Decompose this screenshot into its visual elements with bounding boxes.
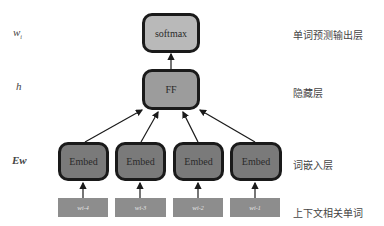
- softmax-label: softmax: [155, 28, 187, 39]
- embed-node-2: Embed: [115, 142, 166, 181]
- ff-label: FF: [165, 84, 176, 95]
- embed-label: Embed: [242, 156, 270, 167]
- embed-label: Embed: [69, 156, 97, 167]
- softmax-node: softmax: [142, 13, 200, 53]
- input-word-sub: i-4: [82, 205, 89, 211]
- hidden-layer-label: 隐藏层: [293, 85, 323, 100]
- input-word-sub: i-2: [197, 205, 204, 211]
- embed-label: Embed: [126, 156, 154, 167]
- input-word-4: wi-1: [230, 198, 280, 217]
- embed-node-4: Embed: [230, 142, 282, 181]
- input-word-sub: i-1: [254, 205, 261, 211]
- feedforward-node: FF: [142, 69, 200, 110]
- input-word-sub: i-3: [140, 205, 147, 211]
- embed-node-1: Embed: [58, 142, 109, 181]
- input-word-2: wi-3: [115, 198, 166, 217]
- output-layer-label: 单词预测输出层: [293, 27, 363, 42]
- embedding-layer-label: 词嵌入层: [293, 157, 333, 172]
- input-word-3: wi-2: [173, 198, 223, 217]
- embed-label: Embed: [184, 156, 212, 167]
- input-word-1: wi-4: [58, 198, 108, 217]
- embed-node-3: Embed: [173, 142, 224, 181]
- context-words-label: 上下文相关单词: [293, 205, 363, 220]
